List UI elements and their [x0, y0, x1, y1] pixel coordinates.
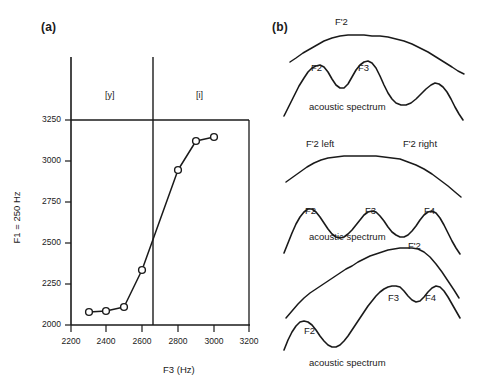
spectrum-middle-envelope-label-left: F'2 left — [306, 138, 334, 149]
spectrum-middle-formant-label-f4: F4 — [424, 205, 435, 216]
spectrum-bottom-envelope-label: F'2 — [408, 240, 421, 251]
data-series-line — [89, 137, 214, 312]
data-point — [121, 304, 128, 311]
y-tick-label-3000: 3000 — [24, 155, 61, 165]
y-tick-label-2000: 2000 — [24, 319, 61, 329]
spectrum-top-caption: acoustic spectrum — [309, 101, 386, 112]
spectrum-middle-envelope — [286, 156, 461, 197]
x-tick-label-2800: 2800 — [158, 336, 198, 346]
x-tick-label-2600: 2600 — [122, 336, 162, 346]
spectrum-top-formant-label-f3: F3 — [358, 62, 369, 73]
spectrum-bottom-formant-label-f3: F3 — [388, 292, 399, 303]
x-tick-label-2400: 2400 — [86, 336, 126, 346]
region-label-y: [y] — [105, 90, 115, 100]
data-point — [211, 134, 218, 141]
x-tick-label-3000: 3000 — [194, 336, 234, 346]
y-axis-title: F1 = 250 Hz — [11, 178, 22, 258]
data-point — [193, 138, 200, 145]
data-point — [103, 308, 110, 315]
panel-a-label: (a) — [41, 20, 56, 34]
spectrum-middle-envelope-label-right: F'2 right — [403, 138, 437, 149]
panel-b-label: (b) — [272, 20, 288, 34]
x-axis-title: F3 (Hz) — [163, 364, 195, 375]
panel-b-spectra: (b) F'2 F2 F3 acoustic spectrum F'2 left… — [262, 0, 485, 386]
spectrum-top-envelope-label: F'2 — [335, 16, 348, 27]
spectrum-bottom-caption: acoustic spectrum — [309, 357, 386, 368]
data-point — [86, 309, 93, 316]
data-point — [139, 267, 146, 274]
panel-b-canvas — [262, 0, 485, 386]
spectrum-bottom-formant-label-f2: F2 — [304, 325, 315, 336]
region-label-i: [i] — [196, 90, 203, 100]
spectrum-middle-caption: acoustic spectrum — [309, 231, 386, 242]
spectrum-middle-formant-label-f3: F3 — [365, 205, 376, 216]
data-point — [175, 167, 182, 174]
y-tick-label-3250: 3250 — [24, 114, 61, 124]
y-tick-label-2500: 2500 — [24, 237, 61, 247]
panel-a-scatter-plot: (a) — [0, 0, 262, 386]
y-tick-label-2250: 2250 — [24, 278, 61, 288]
spectrum-bottom-formant-label-f4: F4 — [425, 292, 436, 303]
y-tick-label-2750: 2750 — [24, 196, 61, 206]
spectrum-bottom-envelope — [286, 248, 459, 318]
spectrum-middle-formant-label-f2: F2 — [305, 205, 316, 216]
x-tick-label-2200: 2200 — [51, 336, 91, 346]
figure-root: (a) — [0, 0, 485, 386]
spectrum-top-formant-label-f2: F2 — [311, 62, 322, 73]
